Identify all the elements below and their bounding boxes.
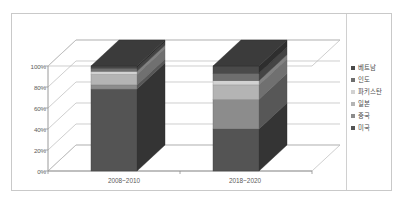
legend-swatch-vietnam: [351, 66, 355, 70]
y-tick-label-40: 40%: [16, 126, 46, 133]
legend-label-pakistan: 파키스탄: [358, 88, 382, 95]
legend-label-usa: 미국: [358, 124, 370, 131]
chart-frame: 100% 80% 60% 40% 20% 0% 2008~2010 2018~2…: [11, 13, 392, 191]
legend-item-pakistan[interactable]: 파키스탄: [351, 86, 382, 97]
x-tick-label-1: 2018~2020: [205, 177, 285, 184]
y-tick-label-0: 0%: [16, 168, 46, 175]
chart-screenshot: 100% 80% 60% 40% 20% 0% 2008~2010 2018~2…: [0, 0, 415, 208]
legend-label-india: 인도: [358, 76, 370, 83]
chart-legend: 베트남 인도 파키스탄 일본 중국: [346, 14, 392, 190]
legend-item-japan[interactable]: 일본: [351, 98, 382, 109]
legend-swatch-india: [351, 78, 355, 82]
legend-item-vietnam[interactable]: 베트남: [351, 62, 382, 73]
legend-label-japan: 일본: [358, 100, 370, 107]
legend-swatch-china: [351, 114, 355, 118]
legend-label-vietnam: 베트남: [358, 64, 376, 71]
legend-list: 베트남 인도 파키스탄 일본 중국: [351, 62, 382, 134]
legend-label-china: 중국: [358, 112, 370, 119]
legend-item-usa[interactable]: 미국: [351, 122, 382, 133]
legend-item-india[interactable]: 인도: [351, 74, 382, 85]
y-tick-label-60: 60%: [16, 105, 46, 112]
legend-swatch-japan: [351, 102, 355, 106]
y-tick-label-80: 80%: [16, 84, 46, 91]
chart-canvas: [12, 14, 342, 190]
legend-item-china[interactable]: 중국: [351, 110, 382, 121]
legend-swatch-usa: [351, 126, 355, 130]
plot-area: 100% 80% 60% 40% 20% 0% 2008~2010 2018~2…: [12, 14, 342, 190]
legend-swatch-pakistan: [351, 90, 355, 94]
y-tick-label-100: 100%: [16, 63, 46, 70]
x-tick-label-0: 2008~2010: [84, 177, 164, 184]
y-tick-label-20: 20%: [16, 147, 46, 154]
